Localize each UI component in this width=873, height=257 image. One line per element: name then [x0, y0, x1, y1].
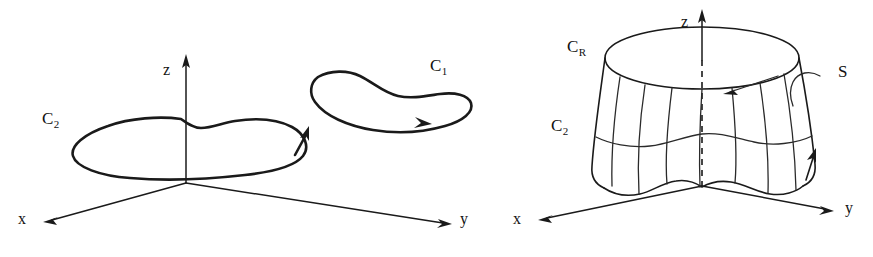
ruling-3 [666, 88, 672, 184]
right-y-axis-arrowhead [819, 206, 834, 215]
right-surface-normal-arrow [723, 76, 778, 95]
label-x-right: x [513, 211, 521, 227]
label-z-right: z [681, 14, 688, 30]
label-c2-left: C2 [42, 110, 59, 127]
right-x-axis [538, 186, 702, 223]
left-y-axis-arrowhead [437, 219, 452, 228]
label-c2-right: C2 [551, 117, 568, 134]
label-c2-left-letter: C [42, 109, 53, 128]
ruling-1 [612, 77, 620, 186]
left-x-axis-line [52, 183, 186, 220]
label-y-left: y [460, 211, 468, 227]
label-c2-right-letter: C [551, 116, 562, 135]
label-x-left: x [18, 211, 26, 227]
right-z-axis [698, 9, 706, 60]
left-c1-arrowhead [414, 117, 432, 128]
right-c2-wavy-boundary [604, 180, 803, 195]
ruling-5 [732, 88, 736, 183]
left-c2-loop [73, 118, 307, 180]
right-x-axis-arrowhead [538, 215, 553, 223]
surface-normal-shaft [730, 76, 778, 92]
label-c2-left-subscript: 2 [54, 118, 60, 130]
ruling-2 [638, 85, 645, 194]
label-cr-right-letter: C [567, 37, 578, 56]
right-surface-mid-contour [596, 134, 812, 147]
label-c1-left-letter: C [430, 56, 441, 75]
right-surface-left-edge [592, 58, 605, 188]
label-cr-right-subscript: R [579, 46, 586, 58]
right-y-axis-line [702, 186, 825, 209]
left-panel-group [43, 54, 471, 228]
left-y-axis [186, 183, 452, 228]
label-c1-left: C1 [430, 57, 447, 74]
diagram-canvas [0, 0, 873, 257]
left-x-axis [43, 183, 186, 225]
surface-normal-arrowhead [723, 88, 739, 95]
figure-root: C2 C1 z x y CR C2 S z x y [0, 0, 873, 257]
ruling-6 [760, 83, 768, 193]
right-x-axis-line [547, 186, 702, 218]
left-c1-loop [311, 72, 471, 132]
label-c2-right-subscript: 2 [563, 125, 569, 137]
label-s-right: S [838, 63, 847, 80]
left-z-axis [182, 54, 190, 183]
right-surface-right-edge [799, 58, 815, 186]
label-z-left: z [163, 62, 170, 78]
left-curve-c1 [311, 72, 471, 132]
left-x-axis-arrowhead [43, 217, 58, 225]
label-y-right: y [845, 200, 853, 216]
left-y-axis-line [186, 183, 443, 223]
left-curve-c2 [73, 118, 309, 180]
label-c1-left-subscript: 1 [442, 65, 448, 77]
label-cr-right: CR [567, 38, 586, 55]
